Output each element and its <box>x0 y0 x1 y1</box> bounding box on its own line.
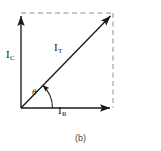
ic-label-subscript: C <box>10 54 15 62</box>
phase-angle-arc <box>43 85 53 108</box>
phase-angle-label: θ <box>32 88 36 97</box>
ir-label: IR <box>58 105 66 116</box>
figure-caption: (b) <box>0 133 161 143</box>
phasor-diagram-canvas <box>0 0 161 151</box>
ir-label-subscript: R <box>62 110 67 118</box>
it-label: IT <box>54 42 62 53</box>
it-label-subscript: T <box>58 47 62 55</box>
ic-label: IC <box>6 49 14 60</box>
phasor-diagram-figure: IC IT IR θ (b) <box>0 0 161 151</box>
